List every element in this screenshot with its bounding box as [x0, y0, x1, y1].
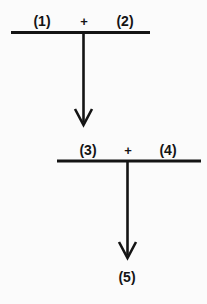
- plus-operator-step-2: +: [124, 144, 132, 157]
- label-reactant-3: (3): [79, 143, 96, 157]
- label-product-5: (5): [118, 270, 135, 284]
- plus-operator-step-1: +: [80, 15, 88, 28]
- label-reactant-4: (4): [159, 143, 176, 157]
- reaction-scheme-diagram: (1) + (2) (3) + (4) (5): [0, 0, 207, 304]
- label-reactant-2: (2): [116, 14, 133, 28]
- label-reactant-1: (1): [33, 14, 50, 28]
